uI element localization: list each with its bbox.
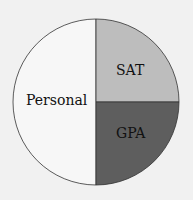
label-gpa: GPA: [116, 125, 145, 141]
slice-gpa: [96, 102, 179, 185]
slice-sat: [96, 19, 179, 102]
label-personal: Personal: [26, 92, 87, 108]
pie-chart: Personal SAT GPA: [0, 0, 193, 200]
label-sat: SAT: [116, 62, 144, 78]
